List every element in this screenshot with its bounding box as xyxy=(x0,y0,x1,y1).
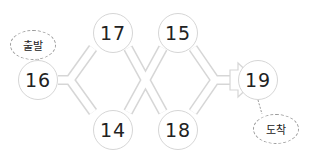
end-bubble: 도착 xyxy=(253,114,299,144)
end-pointer xyxy=(258,100,262,114)
number-path-diagram: 출발 도착 16 17 14 15 18 19 xyxy=(0,0,309,161)
node-bottom-1: 14 xyxy=(93,110,133,150)
node-start: 16 xyxy=(18,60,58,100)
node-bottom-2: 18 xyxy=(158,110,198,150)
start-bubble: 출발 xyxy=(10,30,56,60)
node-end: 19 xyxy=(238,60,278,100)
node-top-1: 17 xyxy=(93,13,133,53)
node-top-2: 15 xyxy=(158,13,198,53)
